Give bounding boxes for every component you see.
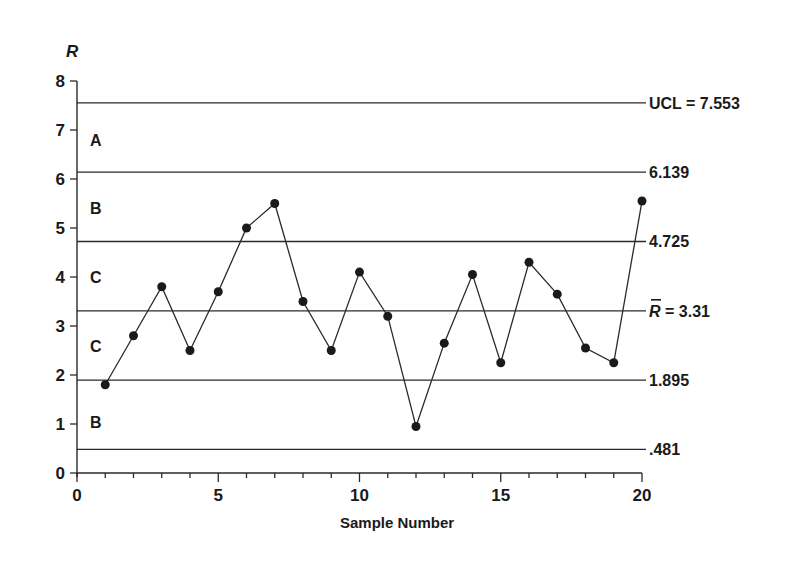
data-point	[299, 297, 308, 306]
data-point	[101, 380, 110, 389]
data-point	[440, 339, 449, 348]
data-point	[214, 287, 223, 296]
x-tick-label: 5	[214, 486, 223, 505]
control-line-label: 4.725	[649, 233, 689, 250]
data-point	[609, 358, 618, 367]
data-point	[553, 290, 562, 299]
x-axis-title: Sample Number	[340, 514, 454, 531]
zone-label: B	[90, 414, 102, 431]
x-tick-label: 0	[72, 486, 81, 505]
data-point	[525, 258, 534, 267]
x-tick-label: 10	[350, 486, 369, 505]
zone-label: C	[90, 338, 102, 355]
y-tick-label: 5	[56, 219, 65, 238]
y-tick-label: 6	[56, 170, 65, 189]
data-point	[129, 331, 138, 340]
zone-label: B	[90, 200, 102, 217]
data-point	[327, 346, 336, 355]
data-point	[242, 224, 251, 233]
x-tick-label: 20	[633, 486, 652, 505]
y-tick-label: 7	[56, 121, 65, 140]
data-point	[581, 344, 590, 353]
data-point	[496, 358, 505, 367]
series-line	[105, 201, 642, 426]
y-tick-label: 3	[56, 317, 65, 336]
control-line-label: .481	[649, 441, 680, 458]
data-point	[186, 346, 195, 355]
zone-label: C	[90, 269, 102, 286]
control-line-label: 1.895	[649, 372, 689, 389]
data-point	[383, 312, 392, 321]
zone-labels: ABCCB	[90, 132, 102, 431]
data-point	[468, 270, 477, 279]
data-point	[270, 199, 279, 208]
zone-label: A	[90, 132, 102, 149]
control-limit-lines: UCL = 7.5536.1394.725R = 3.311.895.481	[77, 95, 740, 459]
y-tick-label: 1	[56, 415, 65, 434]
y-tick-label: 8	[56, 72, 65, 91]
y-axis-title: R	[66, 42, 79, 61]
control-line-label: UCL = 7.553	[649, 95, 740, 112]
data-point	[412, 422, 421, 431]
x-tick-label: 15	[491, 486, 510, 505]
y-tick-label: 0	[56, 464, 65, 483]
r-control-chart: R UCL = 7.5536.1394.725R = 3.311.895.481…	[0, 0, 791, 565]
y-tick-label: 2	[56, 366, 65, 385]
data-point	[638, 197, 647, 206]
y-tick-label: 4	[56, 268, 66, 287]
data-series	[101, 197, 647, 431]
data-point	[355, 268, 364, 277]
data-point	[157, 282, 166, 291]
center-line-label: R = 3.31	[649, 303, 710, 320]
control-line-label: 6.139	[649, 164, 689, 181]
